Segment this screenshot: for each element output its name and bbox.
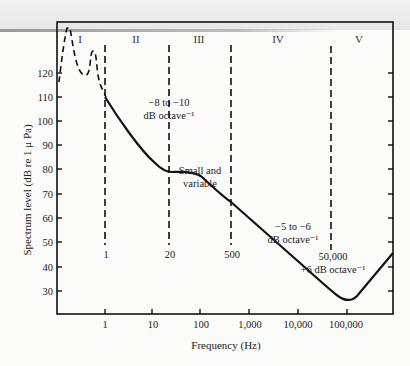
y-tick-60: 60 <box>43 213 54 224</box>
y-tick-70: 70 <box>43 189 54 200</box>
x-tick-100000: 100,000 <box>329 319 363 330</box>
x-axis-title: Frequency (Hz) <box>191 339 261 352</box>
y-tick-120: 120 <box>37 68 53 79</box>
region-labels: I II III IV V <box>78 33 363 45</box>
y-tick-30: 30 <box>43 286 54 297</box>
y-tick-100: 100 <box>37 116 53 127</box>
region-V: V <box>355 33 363 45</box>
annotation-50000-label: 50,000 <box>319 251 348 262</box>
annotation-small-variable-line1: Small and <box>179 165 222 176</box>
x-tick-10: 10 <box>148 319 159 330</box>
x-tick-labels: 1 10 100 1,000 10,000 100,000 <box>102 319 363 330</box>
region-I: I <box>78 33 82 45</box>
y-tick-80: 80 <box>43 164 54 175</box>
region-boundaries <box>105 45 331 250</box>
annotation-slope-2-line1: −5 to −6 <box>275 221 311 232</box>
low-frequency-dashed-curve <box>59 28 106 97</box>
annotation-slope-1-line1: −8 to −10 <box>148 97 189 108</box>
annotation-slope-3: +6 dB octave⁻¹ <box>301 264 366 275</box>
spectrum-chart: 120 110 100 90 80 70 60 50 40 30 1 10 10… <box>0 0 410 366</box>
y-tick-90: 90 <box>43 140 54 151</box>
boundary-label-20: 20 <box>165 249 176 260</box>
x-tick-1: 1 <box>102 319 107 330</box>
region-II: II <box>132 33 140 45</box>
region-III: III <box>194 33 205 45</box>
boundary-labels: 1 20 500 <box>103 249 240 260</box>
boundary-label-500: 500 <box>224 249 240 260</box>
x-tick-10000: 10,000 <box>284 319 313 330</box>
x-tick-100: 100 <box>193 319 209 330</box>
annotation-slope-2-line2: dB octave⁻¹ <box>268 234 319 245</box>
x-tick-1000: 1,000 <box>238 319 262 330</box>
boundary-label-1: 1 <box>103 249 108 260</box>
y-tick-40: 40 <box>43 262 54 273</box>
y-axis-title: Spectrum level (dB re 1 μ Pa) <box>21 124 34 255</box>
y-tick-labels: 120 110 100 90 80 70 60 50 40 30 <box>37 68 53 297</box>
annotation-slope-1-line2: dB octave⁻¹ <box>144 110 195 121</box>
annotations: −8 to −10 dB octave⁻¹ Small and variable… <box>144 97 366 275</box>
y-tick-110: 110 <box>38 92 53 103</box>
annotation-small-variable-line2: variable <box>183 178 217 189</box>
region-IV: IV <box>272 33 284 45</box>
y-tick-50: 50 <box>43 237 54 248</box>
